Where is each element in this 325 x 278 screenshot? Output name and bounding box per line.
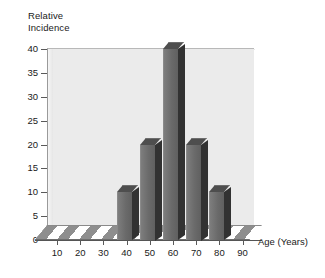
x-axis-tick-label: 90: [231, 248, 255, 258]
x-axis-tick: [173, 240, 174, 245]
x-axis-tick: [150, 240, 151, 245]
bar-front-face: [117, 192, 132, 240]
x-axis-title: Age (Years): [258, 237, 308, 247]
bar-side-face: [201, 140, 208, 240]
bar-front-face: [209, 192, 224, 240]
bar-chart: RelativeIncidence 0510152025303540 10203…: [0, 0, 325, 278]
bar: [163, 49, 178, 240]
x-axis-tick-label: 30: [91, 248, 115, 258]
x-axis-tick-label: 70: [184, 248, 208, 258]
bar-side-face: [178, 44, 185, 240]
x-axis-tick: [219, 240, 220, 245]
x-axis-tick: [127, 240, 128, 245]
x-axis-tick: [196, 240, 197, 245]
bar: [186, 145, 201, 241]
x-axis-tick: [57, 240, 58, 245]
bar-front-face: [163, 49, 178, 240]
bar-side-face: [132, 187, 139, 240]
bar: [117, 192, 132, 240]
bar-front-face: [186, 145, 201, 241]
x-axis-tick-label: 40: [115, 248, 139, 258]
x-axis-tick-label: 60: [161, 248, 185, 258]
bar-side-face: [155, 140, 162, 240]
bar: [209, 192, 224, 240]
bar-front-face: [140, 145, 155, 241]
bar-side-face: [224, 187, 231, 240]
x-axis-tick-label: 50: [138, 248, 162, 258]
bar: [140, 145, 155, 241]
x-axis-tick-label: 20: [68, 248, 92, 258]
x-axis-tick-label: 10: [45, 248, 69, 258]
x-axis-tick-label: 80: [207, 248, 231, 258]
x-axis-tick: [243, 240, 244, 245]
x-axis-tick: [103, 240, 104, 245]
x-axis-tick: [80, 240, 81, 245]
